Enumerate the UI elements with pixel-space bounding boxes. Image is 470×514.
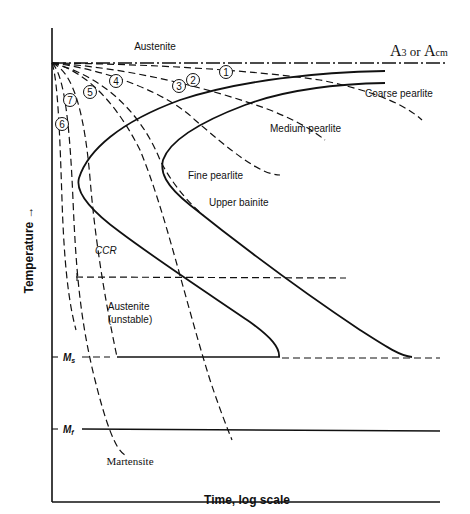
mf-label: Mf [63, 424, 74, 436]
svg-text:5: 5 [87, 87, 93, 98]
curve-label-6: 6 [56, 118, 69, 131]
a3-acm-label: A3 or Acm [390, 42, 448, 59]
austenite-unstable-label: Austenite (unstable) [108, 301, 152, 325]
curve-label-2: 2 [187, 74, 200, 87]
austenite-region-label: Austenite [134, 41, 176, 52]
y-axis-label: Temperature → [22, 206, 36, 293]
curve-label-3: 3 [173, 80, 186, 93]
svg-text:2: 2 [190, 75, 196, 86]
medium-pearlite-label: Medium pearlite [270, 123, 342, 134]
cooling-curve-5-ccr [52, 63, 117, 357]
curve-label-1: 1 [220, 66, 233, 79]
curve-label-4: 4 [110, 75, 123, 88]
cooling-curves [52, 63, 422, 455]
x-axis-label: Time, log scale [204, 493, 290, 507]
isothermal-dashed-line [76, 277, 346, 278]
cooling-curve-4 [52, 63, 232, 440]
svg-text:4: 4 [113, 76, 119, 87]
fine-pearlite-label: Fine pearlite [188, 170, 243, 181]
svg-text:3: 3 [176, 81, 182, 92]
svg-text:1: 1 [223, 67, 229, 78]
ms-line [52, 357, 440, 358]
svg-text:7: 7 [67, 95, 73, 106]
coarse-pearlite-label: Coarse pearlite [365, 88, 433, 99]
curve-label-7: 7 [64, 94, 77, 107]
cooling-transformation-diagram: Time, log scale Temperature → A3 or Acm … [0, 0, 470, 514]
svg-text:6: 6 [59, 119, 65, 130]
martensite-label: Martensite [106, 455, 153, 467]
ms-label: Ms [63, 352, 75, 364]
curve-label-5: 5 [84, 86, 97, 99]
ccr-label: CCR [95, 245, 117, 256]
upper-bainite-label: Upper bainite [209, 197, 269, 208]
